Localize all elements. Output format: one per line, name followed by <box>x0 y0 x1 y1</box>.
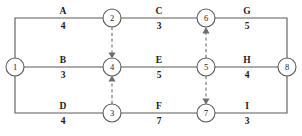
node-label-7: 7 <box>204 108 208 118</box>
edge-label-G-name: G <box>243 6 251 16</box>
edge-label-C-duration: 3 <box>157 21 162 31</box>
node-4: 4 <box>103 58 121 76</box>
node-1: 1 <box>6 58 24 76</box>
edge-label-A-duration: 4 <box>61 21 66 31</box>
edge-label-C-name: C <box>156 6 163 16</box>
edge-label-B-name: B <box>60 55 67 65</box>
edge-label-H-duration: 4 <box>245 70 250 80</box>
node-label-2: 2 <box>110 13 114 23</box>
node-label-8: 8 <box>285 62 289 72</box>
node-7: 7 <box>197 104 215 122</box>
node-2: 2 <box>103 9 121 27</box>
edge-label-I-duration: 3 <box>245 116 250 126</box>
edge-path-I <box>215 76 287 113</box>
network-diagram: A 4 C 3 G 5 B 3 E 5 H 4 D 4 F 7 I 3 1 <box>0 0 302 136</box>
node-8: 8 <box>278 58 296 76</box>
dummy-arrowhead-5-6 <box>202 27 209 34</box>
node-6: 6 <box>197 9 215 27</box>
dummy-edge-paths <box>108 27 209 105</box>
edge-path-G <box>215 18 287 58</box>
edge-label-B-duration: 3 <box>61 70 66 80</box>
edge-label-D-name: D <box>60 101 67 111</box>
edge-label-D-duration: 4 <box>61 116 66 126</box>
edge-label-H-name: H <box>243 55 251 65</box>
node-label-5: 5 <box>204 62 208 72</box>
edge-label-G-duration: 5 <box>245 21 250 31</box>
edge-labels: A 4 C 3 G 5 B 3 E 5 H 4 D 4 F 7 I 3 <box>60 6 252 126</box>
edge-path-A <box>15 18 103 58</box>
edge-label-E-duration: 5 <box>157 70 162 80</box>
edge-label-A-name: A <box>60 6 67 16</box>
edge-label-F-duration: 7 <box>157 116 162 126</box>
node-3: 3 <box>103 104 121 122</box>
node-label-3: 3 <box>110 108 114 118</box>
node-label-6: 6 <box>204 13 208 23</box>
node-label-1: 1 <box>13 62 17 72</box>
edge-label-F-name: F <box>156 101 162 111</box>
edge-paths <box>15 18 287 113</box>
edge-label-I-name: I <box>245 101 249 111</box>
network-diagram-canvas: A 4 C 3 G 5 B 3 E 5 H 4 D 4 F 7 I 3 1 <box>0 0 302 136</box>
edge-label-E-name: E <box>156 55 162 65</box>
nodes: 1 2 3 4 5 6 7 <box>6 9 296 122</box>
node-5: 5 <box>197 58 215 76</box>
